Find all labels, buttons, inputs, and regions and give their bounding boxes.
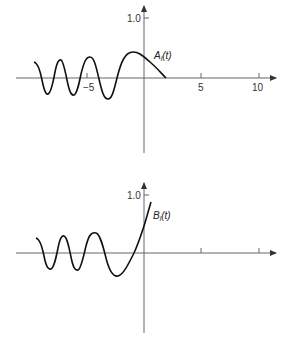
chart-b: 1.0 Bl(t) bbox=[16, 183, 276, 333]
x-tick-label-neg5: −5 bbox=[83, 82, 95, 93]
y-tick-label-1: 1.0 bbox=[127, 13, 141, 24]
y-tick-label-1: 1.0 bbox=[127, 190, 141, 201]
figure: 1.0 −5 5 10 Al(t) 1.0 Bl(t) bbox=[0, 0, 282, 343]
x-tick-label-10: 10 bbox=[252, 82, 264, 93]
svg-text:Al(t): Al(t) bbox=[153, 50, 172, 62]
chart-a: 1.0 −5 5 10 Al(t) bbox=[16, 6, 276, 153]
curve-b bbox=[36, 202, 151, 276]
svg-text:Bl(t): Bl(t) bbox=[153, 210, 171, 222]
series-label-b: Bl(t) bbox=[153, 210, 171, 222]
curve-a bbox=[34, 52, 166, 99]
series-label-a: Al(t) bbox=[153, 50, 172, 62]
x-tick-label-5: 5 bbox=[198, 82, 204, 93]
